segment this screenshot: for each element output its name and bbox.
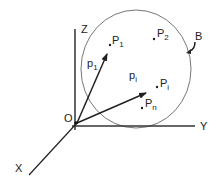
y-axis-label: Y bbox=[200, 120, 208, 132]
origin-label: O bbox=[64, 112, 73, 124]
point-pi-dot bbox=[156, 86, 158, 88]
point-p1-dot bbox=[109, 44, 111, 46]
point-pi-label: Pi bbox=[160, 77, 169, 92]
vector-p1-label: p1 bbox=[87, 57, 98, 72]
point-p2-label: P2 bbox=[157, 27, 169, 42]
point-pn-dot bbox=[141, 107, 143, 109]
diagram-canvas: Z Y X O B P1 P2 Pi Pn p1 pi bbox=[0, 0, 218, 186]
point-p1-label: P1 bbox=[112, 34, 124, 49]
point-pn-label: Pn bbox=[145, 97, 157, 112]
region-b-label: B bbox=[195, 30, 202, 42]
z-axis-label: Z bbox=[81, 23, 88, 35]
origin-point bbox=[74, 121, 78, 125]
point-p2-dot bbox=[153, 38, 155, 40]
x-axis bbox=[29, 124, 76, 175]
vector-pi-label: pi bbox=[129, 69, 137, 84]
x-axis-label: X bbox=[15, 162, 23, 174]
